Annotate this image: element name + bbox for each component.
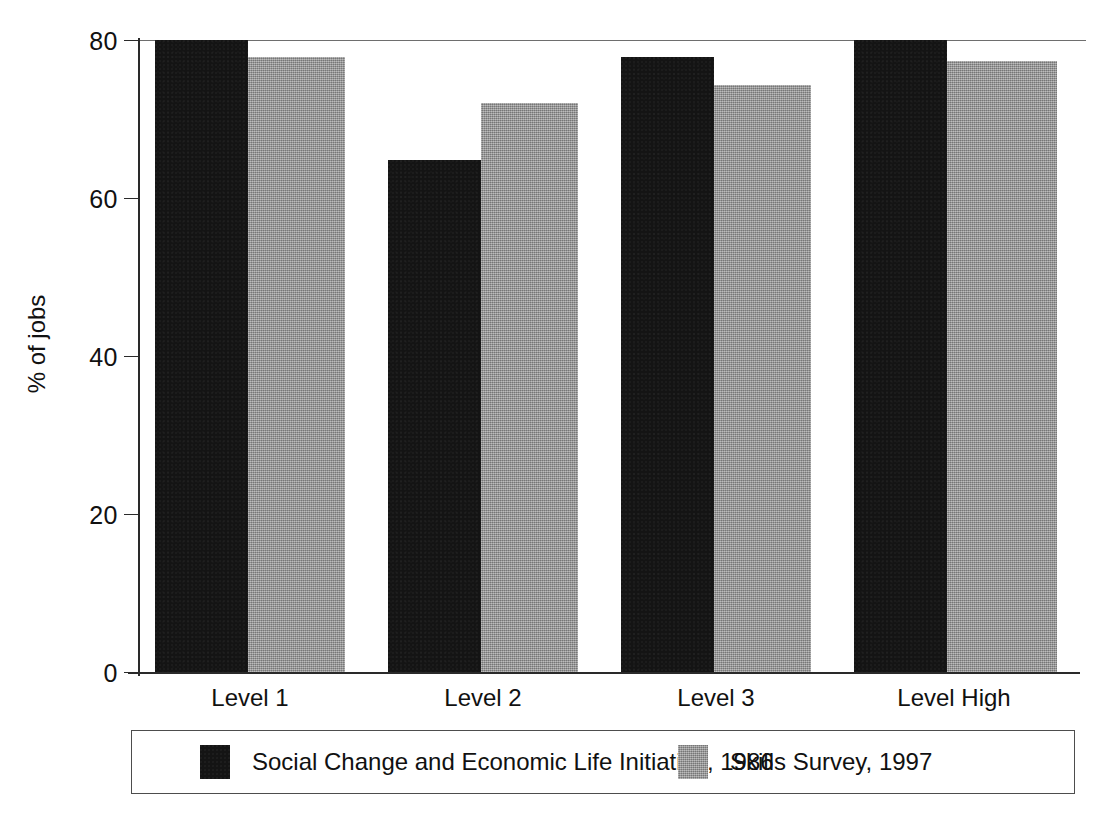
legend: Social Change and Economic Life Initiati… — [131, 730, 1075, 794]
bar-chart: % of jobs 80 60 40 20 0 Level 1 Level 2 … — [0, 0, 1109, 827]
y-tick-mark-20 — [124, 514, 138, 515]
y-tick-label-0: 0 — [40, 659, 118, 688]
x-label-level-3: Level 3 — [621, 684, 811, 712]
x-axis-line — [128, 672, 1080, 674]
bar-level-high-sceli-1986 — [854, 40, 947, 672]
bar-level-high-skills-1997 — [947, 61, 1057, 672]
bar-level-2-sceli-1986 — [388, 160, 481, 672]
x-label-level-high: Level High — [854, 684, 1054, 712]
plot-area — [138, 40, 1080, 672]
x-label-level-1: Level 1 — [155, 684, 345, 712]
y-tick-label-40: 40 — [40, 343, 118, 372]
legend-swatch-black-icon — [200, 745, 230, 779]
legend-swatch-gray-icon — [678, 745, 708, 779]
bar-level-3-sceli-1986 — [621, 57, 714, 672]
y-tick-label-20: 20 — [40, 501, 118, 530]
bar-level-3-skills-1997 — [714, 85, 811, 672]
bar-level-1-sceli-1986 — [155, 40, 248, 672]
y-tick-mark-80 — [124, 40, 138, 41]
y-tick-mark-40 — [124, 356, 138, 357]
y-tick-label-60: 60 — [40, 185, 118, 214]
x-label-level-2: Level 2 — [388, 684, 578, 712]
legend-entry-skills-1997: Skills Survey, 1997 — [678, 743, 932, 781]
y-tick-mark-60 — [124, 198, 138, 199]
bar-level-2-skills-1997 — [481, 103, 578, 672]
bar-level-1-skills-1997 — [248, 57, 345, 672]
legend-label-skills-1997: Skills Survey, 1997 — [730, 748, 932, 776]
y-tick-label-80: 80 — [40, 27, 118, 56]
